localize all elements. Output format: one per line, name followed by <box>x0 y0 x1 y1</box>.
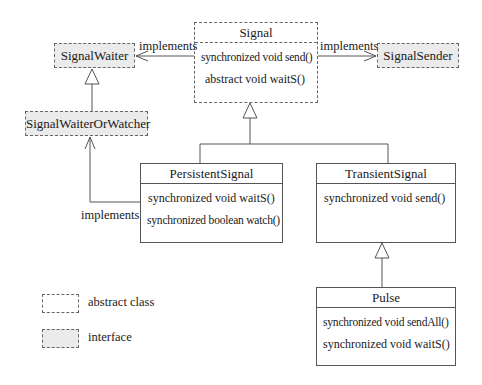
hollow-triangle-icon <box>243 103 257 118</box>
class-persistent-signal[interactable]: PersistentSignal synchronized void waitS… <box>140 163 283 243</box>
class-name: TransientSignal <box>317 164 455 184</box>
implements-label: implements <box>320 39 378 54</box>
interface-signal-sender[interactable]: SignalSender <box>377 43 459 68</box>
legend-abstract-swatch <box>42 294 79 313</box>
extends-signal-branch-line <box>200 144 388 163</box>
interface-name: SignalWaiter <box>55 44 134 67</box>
hollow-triangle-icon <box>85 69 99 84</box>
interface-name: SignalSender <box>378 44 458 67</box>
class-name: PersistentSignal <box>141 164 282 184</box>
operation: synchronized void send() <box>324 187 455 209</box>
operation: synchronized void waitS() <box>148 187 282 209</box>
interface-name: SignalWaiterOrWatcher <box>26 112 147 135</box>
operation: synchronized void send() <box>201 46 317 68</box>
operation: synchronized boolean watch() <box>147 209 282 231</box>
implements-label: implements <box>139 39 197 54</box>
operation: abstract void waitS() <box>201 68 317 90</box>
hollow-triangle-icon <box>375 243 389 258</box>
interface-signal-waiter[interactable]: SignalWaiter <box>54 43 135 68</box>
interface-signal-waiter-or-watcher[interactable]: SignalWaiterOrWatcher <box>25 111 148 136</box>
operation: synchronized void sendAll() <box>323 311 455 333</box>
implements-label: implements <box>81 208 139 223</box>
legend-interface-swatch <box>42 329 79 348</box>
class-transient-signal[interactable]: TransientSignal synchronized void send() <box>316 163 456 243</box>
class-pulse[interactable]: Pulse synchronized void sendAll() synchr… <box>316 287 456 366</box>
class-name: Pulse <box>317 288 455 308</box>
class-signal[interactable]: Signal synchronized void send() abstract… <box>194 22 318 103</box>
legend-interface-label: interface <box>88 330 132 345</box>
operation: synchronized void waitS() <box>323 333 455 355</box>
class-name: Signal <box>195 23 317 43</box>
legend-abstract-label: abstract class <box>88 295 154 310</box>
implements-persistent-wow-line <box>90 137 140 202</box>
